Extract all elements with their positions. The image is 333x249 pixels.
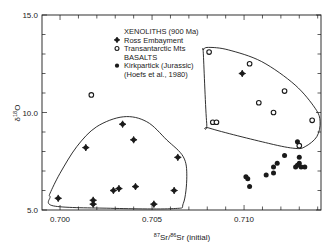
kirkpatrick-point-marker: [282, 153, 287, 158]
kirkpatrick-point-marker: [271, 170, 276, 175]
x-axis-title: 87Sr/86Sr (initial): [154, 232, 211, 242]
x-tick-label: 0.710: [234, 215, 255, 224]
ross-point-marker-core: [133, 185, 137, 189]
ross-point-marker-core: [240, 71, 244, 75]
ross-point-marker-core: [132, 138, 136, 142]
kirkpatrick-point-marker: [271, 165, 276, 170]
legend-entry-5: (Hoefs et al., 1980): [124, 70, 188, 79]
ross-point-marker-core: [111, 188, 115, 192]
kirkpatrick-point-marker: [295, 163, 300, 168]
transantarctic-point-marker: [214, 120, 219, 125]
transantarctic-point-marker: [207, 50, 212, 55]
transantarctic-point-marker: [310, 118, 315, 123]
y-axis-title: δ18O: [12, 105, 22, 122]
kirkpatrick-point-marker: [245, 176, 250, 181]
ross-point-marker-core: [84, 146, 88, 150]
series-transantarctic: [89, 50, 314, 148]
left-field-outline: [48, 117, 186, 209]
transantarctic-point-marker: [247, 61, 252, 66]
transantarctic-point-marker: [89, 93, 94, 98]
kirkpatrick-point-marker: [247, 184, 252, 189]
y-tick-label: 5.0: [27, 206, 39, 215]
y-tick-label: 15.0: [22, 11, 38, 20]
ross-point-marker-core: [91, 202, 95, 206]
transantarctic-point-marker: [271, 110, 276, 115]
transantarctic-point-marker: [282, 89, 287, 94]
ross-point-marker-core: [56, 196, 60, 200]
x-tick-label: 0.700: [50, 215, 71, 224]
kirkpatrick-point-marker: [275, 161, 280, 166]
scatter-chart: 0.7000.7050.710 5.010.015.0 XENOLITHS (9…: [0, 0, 333, 249]
ross-point-marker-core: [176, 155, 180, 159]
kirkpatrick-point-marker: [295, 139, 300, 144]
kirkpatrick-point-marker: [302, 165, 307, 170]
ross-point-marker-core: [117, 186, 121, 190]
transantarctic-point-marker: [256, 100, 261, 105]
x-tick-label: 0.705: [142, 215, 163, 224]
legend: XENOLITHS (900 Ma)Ross EmbaymentTransant…: [114, 27, 199, 79]
x-axis-title-text: 87Sr/86Sr (initial): [154, 232, 211, 242]
ross-point-marker-core: [152, 202, 156, 206]
kirkpatrick-point-marker: [264, 172, 269, 177]
ross-point-marker-core: [121, 122, 125, 126]
legend-ross-icon-core: [115, 38, 119, 42]
kirkpatrick-point-marker: [297, 155, 302, 160]
ross-point-marker-core: [172, 188, 176, 192]
legend-kirkpatrick-icon: [115, 64, 119, 68]
right-field-outline: [203, 47, 320, 148]
y-tick-label: 10.0: [22, 109, 38, 118]
legend-transantarctic-icon: [115, 47, 119, 51]
y-axis-title-text: δ18O: [12, 105, 22, 122]
